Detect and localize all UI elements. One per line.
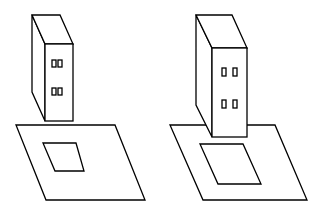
diagram-canvas (0, 0, 320, 215)
left-building-front (45, 44, 73, 121)
left-figure (16, 15, 145, 200)
right-figure (170, 15, 307, 200)
right-building (196, 15, 247, 137)
right-building-front (212, 48, 247, 137)
left-ground-plane (16, 125, 145, 200)
left-building (32, 15, 73, 121)
